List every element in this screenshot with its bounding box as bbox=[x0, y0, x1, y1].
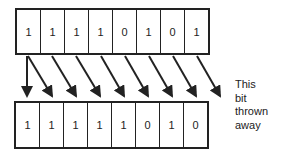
arrow-icon bbox=[197, 56, 220, 96]
bottom-bit-cell: 0 bbox=[136, 103, 160, 147]
bottom-register: 1 1 1 1 1 0 1 0 bbox=[14, 101, 209, 149]
discarded-bit-annotation: This bit thrown away bbox=[235, 78, 268, 132]
bottom-bit-cell: 1 bbox=[16, 103, 40, 147]
bottom-bit-cell: 1 bbox=[64, 103, 88, 147]
annotation-line: This bbox=[235, 78, 268, 92]
bottom-bit-cell: 0 bbox=[184, 103, 207, 147]
annotation-line: bit bbox=[235, 92, 268, 106]
arrow-icon bbox=[173, 56, 196, 96]
annotation-line: thrown bbox=[235, 105, 268, 119]
arrow-icon bbox=[125, 56, 148, 96]
bottom-bit-cell: 1 bbox=[88, 103, 112, 147]
bottom-bit-cell: 1 bbox=[112, 103, 136, 147]
arrow-icon bbox=[149, 56, 172, 96]
bottom-bit-cell: 1 bbox=[40, 103, 64, 147]
arrow-icon bbox=[101, 56, 124, 96]
arrow-icon bbox=[52, 56, 76, 96]
arrow-icon bbox=[76, 56, 100, 96]
arrow-icon bbox=[28, 56, 52, 96]
bottom-bit-cell: 1 bbox=[160, 103, 184, 147]
annotation-line: away bbox=[235, 119, 268, 133]
